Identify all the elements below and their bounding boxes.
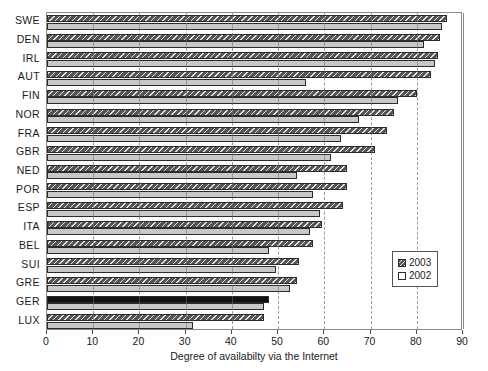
bar-tick [186,303,187,310]
bar-tick [139,41,140,48]
bar-tick [324,165,325,172]
bar-tick [232,172,233,179]
bar-tick [93,172,94,179]
bar-aut-2002 [47,79,306,86]
bar-tick [324,34,325,41]
bar-tick [139,296,140,303]
bar-tick [232,127,233,134]
bar-tick [93,127,94,134]
bar-tick [186,172,187,179]
legend-label-2002: 2002 [409,270,431,281]
bar-tick [186,90,187,97]
bar-tick [324,135,325,142]
bar-tick [139,228,140,235]
bar-tick [278,127,279,134]
y-label-fra: FRA [18,127,40,139]
bar-tick [186,221,187,228]
bar-tick [371,97,372,104]
bar-tick [93,202,94,209]
bar-den-2003 [47,34,440,41]
bar-row [47,144,461,163]
bar-tick [232,191,233,198]
bar-row [47,88,461,107]
bar-tick [93,90,94,97]
x-tick-label-70: 70 [364,335,376,347]
bar-tick [93,266,94,273]
bar-tick [93,285,94,292]
bar-tick [186,41,187,48]
bar-tick [186,277,187,284]
bar-tick [186,240,187,247]
bar-tick [371,71,372,78]
bar-tick [232,34,233,41]
y-label-fin: FIN [22,89,40,101]
bar-tick [417,23,418,30]
bar-tick [278,135,279,142]
legend-swatch-2003-icon [398,259,406,267]
bar-tick [232,71,233,78]
bar-tick [278,15,279,22]
bar-tick [93,146,94,153]
bar-tick [186,109,187,116]
bar-bel-2002 [47,247,269,254]
bar-tick [139,34,140,41]
bar-tick [278,116,279,123]
bar-row [47,294,461,313]
bar-tick [186,135,187,142]
bar-tick [93,52,94,59]
bar-tick [371,60,372,67]
bar-tick [139,23,140,30]
x-tick-mark-0 [46,330,47,334]
bar-tick [93,296,94,303]
bar-tick [278,34,279,41]
bar-tick [232,52,233,59]
x-tick-label-30: 30 [179,335,191,347]
bar-tick [186,322,187,329]
y-label-irl: IRL [22,52,40,64]
bar-tick [232,247,233,254]
bar-tick [324,52,325,59]
x-tick-mark-50 [277,330,278,334]
bar-tick [93,97,94,104]
y-label-por: POR [16,183,40,195]
bar-tick [139,191,140,198]
bar-tick [139,277,140,284]
bar-tick [324,15,325,22]
bar-row [47,107,461,126]
bar-tick [186,52,187,59]
bar-tick [278,221,279,228]
bar-tick [278,90,279,97]
bar-tick [186,154,187,161]
bar-tick [371,127,372,134]
bar-tick [278,277,279,284]
bar-tick [186,183,187,190]
bar-row [47,125,461,144]
bar-esp-2003 [47,202,343,209]
bar-tick [139,52,140,59]
bar-tick [139,60,140,67]
x-tick-label-90: 90 [456,335,468,347]
bar-tick [232,165,233,172]
bar-tick [186,34,187,41]
bar-swe-2003 [47,15,447,22]
bar-tick [278,285,279,292]
bar-tick [93,23,94,30]
bar-tick [186,247,187,254]
bar-row [47,50,461,69]
bar-por-2002 [47,191,313,198]
bar-tick [186,165,187,172]
bar-tick [93,303,94,310]
bar-tick [232,285,233,292]
bar-tick [186,79,187,86]
chart-legend: 2003 2002 [392,251,438,287]
bar-tick [186,146,187,153]
bar-tick [232,210,233,217]
x-tick-label-0: 0 [43,335,49,347]
bar-den-2002 [47,41,424,48]
bar-tick [278,210,279,217]
y-label-aut: AUT [18,70,40,82]
bar-irl-2003 [47,52,438,59]
y-label-esp: ESP [18,201,40,213]
x-tick-label-20: 20 [133,335,145,347]
x-tick-label-10: 10 [86,335,98,347]
